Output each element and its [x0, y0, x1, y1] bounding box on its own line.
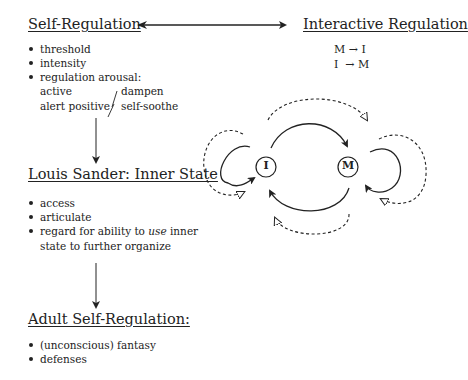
node-infant-label: I	[256, 159, 276, 172]
dashed-arc-top	[268, 99, 367, 120]
list-item: articulate	[29, 210, 198, 224]
list-item: intensity	[29, 56, 141, 70]
interactive-regulation-heading: Interactive Regulation	[303, 16, 468, 32]
list-item: (unconscious) fantasy	[29, 338, 156, 352]
list-item: regard for ability to use inner	[29, 224, 198, 238]
self-loop-infant	[221, 146, 254, 186]
dashed-arc-bottom	[275, 214, 349, 234]
arc-mother-to-infant	[270, 188, 349, 211]
formula-mother-to-infant: M → I	[334, 42, 366, 57]
self-loop-mother	[366, 149, 401, 192]
list-item: regulation arousal:	[29, 70, 141, 84]
list-item: access	[29, 196, 198, 210]
inner-state-continuation: state to further organize	[40, 239, 171, 253]
list-item: defenses	[29, 352, 156, 366]
node-mother-label: M	[338, 159, 358, 172]
self-regulation-list: threshold intensity regulation arousal:	[29, 42, 141, 84]
arousal-left-1: active	[40, 84, 72, 98]
arousal-right-2: self-soothe	[121, 99, 178, 113]
adult-self-regulation-heading: Adult Self-Regulation:	[28, 311, 190, 327]
formula-infant-to-mother: I → M	[334, 57, 369, 72]
self-regulation-heading: Self-Regulation	[28, 16, 141, 32]
adult-list: (unconscious) fantasy defenses	[29, 338, 156, 366]
list-item: threshold	[29, 42, 141, 56]
dashed-self-loop-mother	[379, 135, 426, 203]
inner-state-list: access articulate regard for ability to …	[29, 196, 198, 238]
arousal-left-2: alert positive	[40, 99, 110, 113]
inner-state-heading: Louis Sander: Inner State	[28, 166, 218, 182]
arc-infant-to-mother	[271, 124, 347, 148]
arousal-right-1: dampen	[121, 84, 164, 98]
